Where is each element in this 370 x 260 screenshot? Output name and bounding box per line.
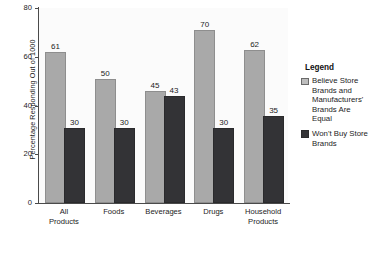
bar-value-label: 50 (101, 69, 110, 78)
bar-value-label: 30 (120, 118, 129, 127)
x-axis-tick-label: Foods (89, 207, 139, 217)
bar-value-label: 62 (250, 40, 259, 49)
x-axis-tick-label-line: All (39, 207, 89, 217)
bar-chart-figure: Percentage Responding Out of 1000 020406… (0, 0, 370, 260)
bar-group: 7030 (194, 8, 232, 203)
bar-value-label: 70 (200, 20, 209, 29)
y-axis-tick-mark (35, 203, 39, 204)
bar-value-label: 45 (151, 81, 160, 90)
bar-value-label: 35 (269, 106, 278, 115)
legend-entries: Believe Store Brands and Manufacturers' … (301, 76, 370, 148)
legend-entry[interactable]: Won't Buy Store Brands (301, 129, 370, 148)
bar-value-label: 30 (70, 118, 79, 127)
bar-group: 5030 (95, 8, 133, 203)
legend-title: Legend (305, 63, 370, 72)
x-axis-tick-label-line: Products (238, 217, 288, 227)
legend-entry-label: Won't Buy Store Brands (312, 129, 368, 148)
legend-entry-label: Believe Store Brands and Manufacturers' … (312, 76, 363, 123)
y-axis-tick-label: 40 (24, 101, 32, 110)
bar: 30 (213, 128, 234, 203)
y-axis-tick-label: 0 (28, 198, 32, 207)
legend-swatch-icon (301, 78, 309, 86)
y-axis-tick-mark (35, 57, 39, 58)
bar-value-label: 61 (51, 42, 60, 51)
bar: 30 (64, 128, 85, 203)
x-axis-tick-label: AllProducts (39, 207, 89, 226)
legend-swatch-icon (301, 130, 309, 138)
x-axis-tick-label-line: Products (39, 217, 89, 227)
x-axis-tick-label-line: Drugs (188, 207, 238, 217)
x-axis-tick-label: Drugs (188, 207, 238, 217)
y-axis-tick-label: 20 (24, 149, 32, 158)
y-axis-tick-mark (35, 106, 39, 107)
legend: Legend Believe Store Brands and Manufact… (301, 63, 370, 153)
bar: 62 (244, 50, 265, 203)
bar-group: 6235 (244, 8, 282, 203)
x-axis-tick-label: Beverages (139, 207, 189, 217)
bar: 70 (194, 30, 215, 203)
bar: 45 (145, 91, 166, 203)
x-axis-line (35, 203, 290, 204)
y-axis-tick-label: 60 (24, 52, 32, 61)
bar: 43 (164, 96, 185, 203)
legend-entry[interactable]: Believe Store Brands and Manufacturers' … (301, 76, 370, 124)
bar-value-label: 30 (219, 118, 228, 127)
bar-group: 4543 (145, 8, 183, 203)
bar-value-label: 43 (170, 86, 179, 95)
bar: 35 (263, 116, 284, 203)
x-axis-tick-label-line: Foods (89, 207, 139, 217)
bar: 50 (95, 79, 116, 203)
bar: 61 (45, 52, 66, 203)
bar: 30 (114, 128, 135, 203)
x-axis-tick-label-line: Beverages (139, 207, 189, 217)
y-axis-tick-label: 80 (24, 3, 32, 12)
x-axis-tick-label-line: Household (238, 207, 288, 217)
y-axis-tick-mark (35, 8, 39, 9)
bar-group: 6130 (45, 8, 83, 203)
y-axis-title: Percentage Responding Out of 1000 (28, 10, 37, 190)
y-axis-tick-mark (35, 154, 39, 155)
x-axis-tick-label: HouseholdProducts (238, 207, 288, 226)
